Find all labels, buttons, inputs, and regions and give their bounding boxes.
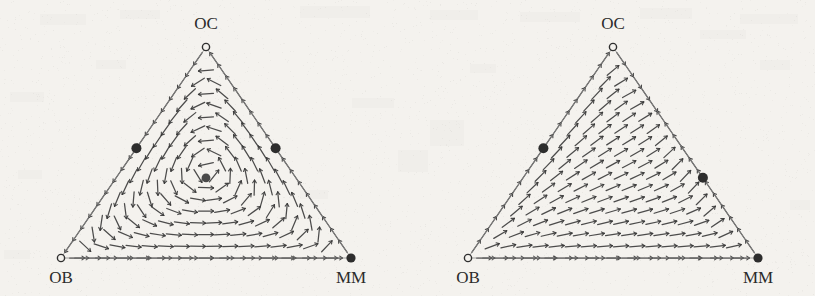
vertex-label-ob: OB <box>49 268 73 287</box>
vertex-label-ob: OB <box>456 268 480 287</box>
left-vector-field <box>65 53 347 260</box>
vertex-label-oc: OC <box>194 14 218 33</box>
right-simplex-svg: OC OB MM <box>407 0 815 296</box>
right-triangle-edges <box>468 47 758 258</box>
left-simplex-svg: OC OB MM <box>0 0 408 296</box>
vertex-label-oc: OC <box>601 14 625 33</box>
right-equilibrium-markers <box>464 43 762 262</box>
right-simplex-panel: OC OB MM <box>407 0 815 296</box>
figure-canvas: OC OB MM OC OB MM <box>0 0 815 296</box>
vertex-label-mm: MM <box>743 268 773 287</box>
vertex-label-mm: MM <box>336 268 366 287</box>
right-vector-field <box>472 53 754 260</box>
left-equilibrium-markers <box>57 43 355 262</box>
left-simplex-panel: OC OB MM <box>0 0 408 296</box>
left-triangle-edges <box>61 47 351 258</box>
